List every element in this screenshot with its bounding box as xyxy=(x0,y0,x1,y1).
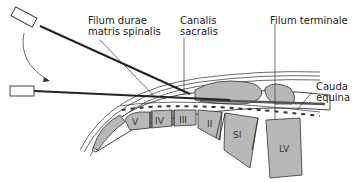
label-canalis-sacralis: Canalis sacralis xyxy=(180,15,218,37)
label-line: Canalis xyxy=(180,15,218,26)
label-filum-durae: Filum durae matris spinalis xyxy=(88,15,161,37)
vertebra-label-ii: II xyxy=(207,119,212,129)
label-line: matris spinalis xyxy=(88,26,161,37)
vertebra-label-lv: LV xyxy=(279,144,290,154)
vertebra-label-iii: III xyxy=(179,115,187,125)
label-line: Cauda xyxy=(316,81,350,92)
label-cauda-equina: Cauda equina xyxy=(316,81,350,103)
vertebra-label-iv: IV xyxy=(155,116,165,126)
label-line: Filum durae xyxy=(88,15,161,26)
leader-filum-durae xyxy=(100,40,155,97)
label-line: equina xyxy=(316,92,350,103)
label-line: sacralis xyxy=(180,26,218,37)
vertebra-label-si: SI xyxy=(233,130,241,140)
sacral-anatomy-diagram: V IV III II SI LV xyxy=(0,0,354,182)
vertebra-label-v: V xyxy=(132,117,139,127)
label-filum-terminale: Filum terminale xyxy=(270,15,348,26)
reposition-arrow-icon xyxy=(23,33,48,80)
